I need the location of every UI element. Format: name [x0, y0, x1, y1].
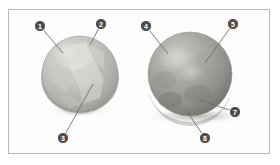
- callout-2-label: 2: [99, 21, 103, 28]
- callout-3-label: 3: [61, 135, 65, 142]
- callout-1-label: 1: [38, 23, 42, 30]
- figure-panel: 1234578: [0, 0, 280, 165]
- callout-4[interactable]: 4: [140, 20, 168, 54]
- callout-7-label: 7: [233, 109, 237, 116]
- callout-5-label: 5: [231, 21, 235, 28]
- callout-8-label: 8: [203, 135, 207, 142]
- figure-illustration: 1234578: [0, 0, 280, 165]
- callout-4-label: 4: [144, 23, 148, 30]
- callout-1[interactable]: 1: [34, 20, 63, 53]
- left-sphere-group: [41, 36, 119, 117]
